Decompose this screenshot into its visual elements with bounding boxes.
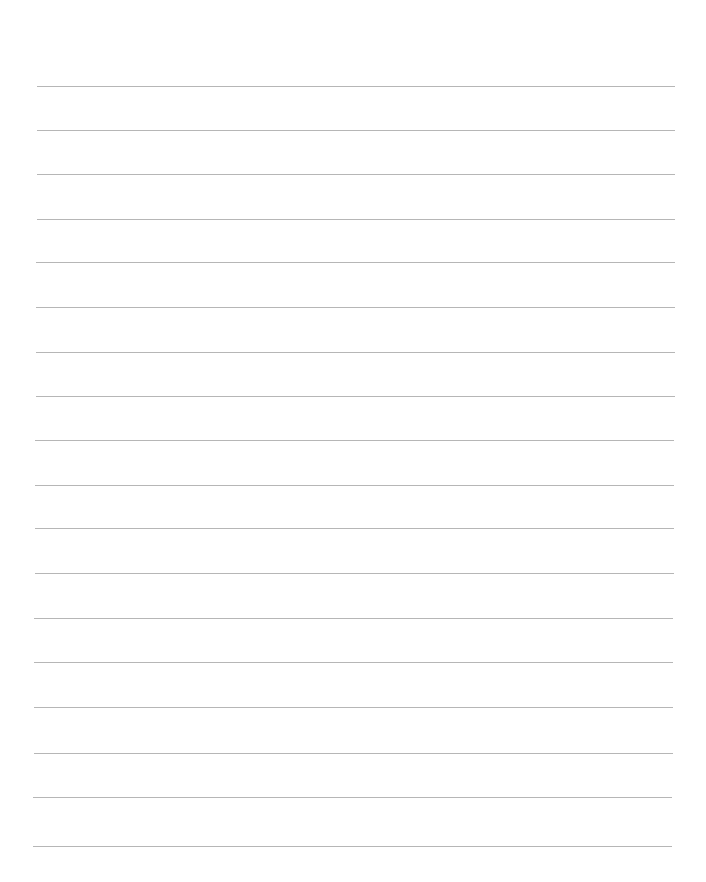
ruled-line xyxy=(37,86,675,87)
ruled-line xyxy=(35,573,674,574)
ruled-line xyxy=(37,174,675,175)
ruled-line xyxy=(37,219,675,220)
ruled-line xyxy=(36,262,675,263)
ruled-line xyxy=(34,618,673,619)
ruled-line xyxy=(33,797,672,798)
ruled-line xyxy=(35,440,674,441)
ruled-line xyxy=(37,130,675,131)
ruled-page xyxy=(0,0,706,882)
ruled-line xyxy=(36,352,675,353)
ruled-line xyxy=(36,307,675,308)
ruled-line xyxy=(35,528,674,529)
ruled-line xyxy=(34,662,673,663)
ruled-line xyxy=(35,485,674,486)
ruled-line xyxy=(36,396,675,397)
ruled-line xyxy=(34,707,673,708)
ruled-line xyxy=(33,846,672,847)
ruled-line xyxy=(34,753,673,754)
